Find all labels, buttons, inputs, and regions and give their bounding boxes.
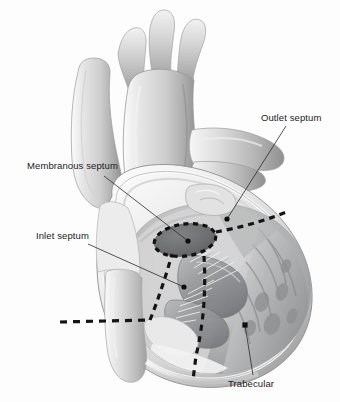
heart-body: [96, 164, 312, 387]
heart-illustration: [0, 0, 340, 402]
label-outlet-septum: Outlet septum: [261, 112, 321, 123]
inferior-vena-cava: [105, 269, 147, 383]
heart-anatomy-figure: Outlet septum Membranous septum Inlet se…: [0, 0, 340, 402]
left-carotid-branch: [149, 10, 174, 78]
dot-inlet-septum: [181, 284, 186, 289]
dot-outlet-septum: [224, 216, 229, 221]
dot-membranous-septum: [185, 238, 190, 243]
dot-trabecular: [242, 322, 247, 327]
label-membranous-septum: Membranous septum: [27, 160, 118, 171]
label-trabecular: Trabecular: [228, 378, 274, 389]
left-subclavian-branch: [177, 19, 206, 80]
label-inlet-septum: Inlet septum: [36, 230, 89, 241]
